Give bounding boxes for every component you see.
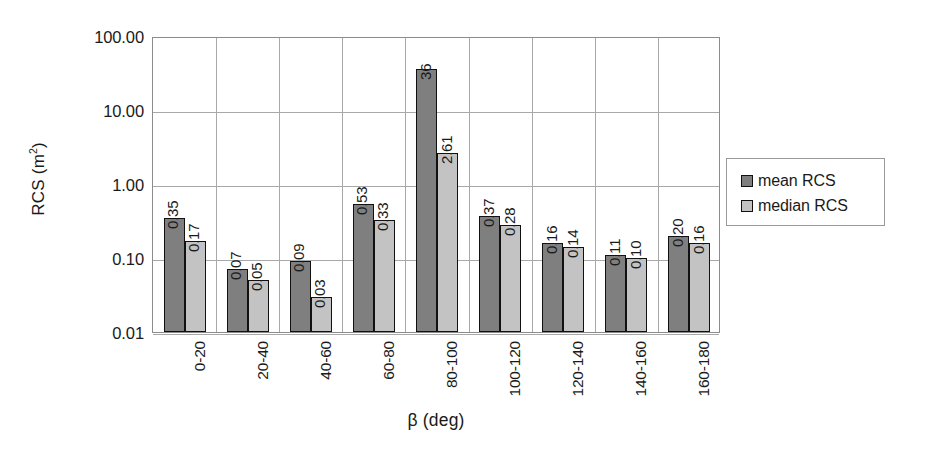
bar-value-label: 0.09 [291,244,306,272]
bar-value-label: 0.05 [249,263,264,291]
x-axis-tick-label: 140-160 [633,341,648,396]
gridline-vertical [216,38,217,332]
y-axis-title: RCS (m2) [27,119,49,239]
y-axis-title-tail: ) [29,142,48,148]
x-axis-tick-label: 60-80 [381,341,396,380]
bar-median-140-160 [626,258,647,332]
gridline-vertical [595,38,596,332]
rcs-bar-chart: RCS (m2) 100.0010.001.000.100.01 0.350.1… [0,0,926,458]
legend-swatch-mean-rcs [741,175,753,187]
x-axis-tick-label: 80-100 [444,341,459,388]
bar-median-120-140 [563,247,584,332]
y-axis-tick-label: 100.00 [68,29,144,45]
legend-item-median-rcs: median RCS [741,193,884,218]
bar-value-label: 0.16 [544,225,559,253]
bar-value-label: 0.16 [691,225,706,253]
bar-value-label: 0.28 [502,208,517,236]
legend-item-mean-rcs: mean RCS [741,168,884,193]
bar-value-label: 2.61 [439,136,454,164]
gridline-horizontal [153,334,719,335]
legend-label-mean-rcs: mean RCS [758,173,835,189]
y-axis-tick-label: 1.00 [68,177,144,193]
legend-label-median-rcs: median RCS [758,198,848,214]
bar-value-label: 0.07 [228,252,243,280]
gridline-vertical [469,38,470,332]
bar-value-label: 0.11 [607,239,622,266]
bar-value-label: 0.17 [186,224,201,252]
bar-mean-140-160 [605,255,626,332]
bar-median-100-120 [500,225,521,332]
gridline-vertical [279,38,280,332]
bar-mean-80-100 [416,69,437,332]
x-axis-tick-label: 0-20 [192,341,207,371]
x-axis-tick-label: 120-140 [570,341,585,396]
legend-swatch-median-rcs [741,200,753,212]
y-axis-tick-label: 0.10 [68,251,144,267]
y-axis-tick-labels: 100.0010.001.000.100.01 [64,0,144,458]
bar-mean-160-180 [668,236,689,332]
x-axis-tick-label: 20-40 [255,341,270,380]
gridline-vertical [658,38,659,332]
bar-value-label: 0.53 [354,187,369,215]
bar-mean-100-120 [479,216,500,332]
bar-value-label: 0.10 [628,241,643,269]
bar-value-label: 0.03 [312,279,327,307]
bar-value-label: 0.20 [670,218,685,246]
bar-value-label: 0.37 [481,199,496,227]
bar-mean-120-140 [542,243,563,332]
plot-area: 0.350.170.070.050.090.030.530.33362.610.… [152,37,720,333]
y-axis-title-text: RCS (m [29,154,48,216]
y-axis-title-exponent: 2 [27,148,39,154]
gridline-vertical [532,38,533,332]
x-axis-tick-label: 40-60 [318,341,333,380]
bar-mean-0-20 [164,218,185,332]
x-axis-tick-label: 160-180 [696,341,711,396]
gridline-vertical [342,38,343,332]
bar-value-label: 36 [418,64,433,80]
bar-mean-60-80 [353,204,374,332]
bar-value-label: 0.14 [565,230,580,258]
bar-value-label: 0.33 [375,202,390,230]
bar-median-80-100 [437,153,458,332]
bar-median-0-20 [185,241,206,332]
gridline-vertical [405,38,406,332]
bar-value-label: 0.35 [165,200,180,228]
bar-median-160-180 [689,243,710,332]
x-axis-title: β (deg) [152,410,720,431]
y-axis-tick-label: 10.00 [68,103,144,119]
bar-median-60-80 [374,220,395,332]
x-axis-tick-label: 100-120 [507,341,522,396]
y-axis-tick-label: 0.01 [68,325,144,341]
chart-legend: mean RCS median RCS [726,158,885,226]
